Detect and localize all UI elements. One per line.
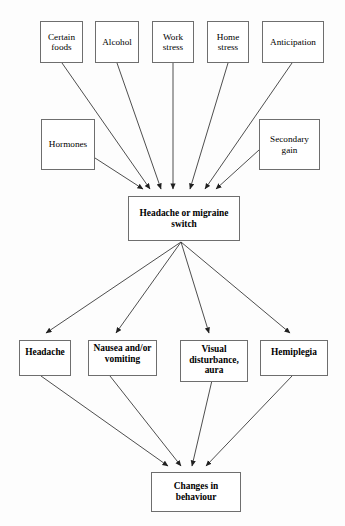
node-changes-in-behaviour[interactable]: Changes in behaviour	[151, 472, 241, 512]
node-secondary-gain-line2: gain	[282, 145, 298, 155]
node-switch-line2: switch	[171, 219, 197, 229]
node-visual-line3: aura	[205, 365, 224, 375]
edge-visual-to-changes	[192, 376, 213, 466]
edge-headache-to-changes	[41, 376, 168, 466]
node-headache-label: Headache	[20, 347, 70, 358]
node-anticipation-label: Anticipation	[263, 37, 323, 47]
edge-layer	[0, 0, 345, 526]
node-work-stress-line1: Work	[163, 32, 183, 42]
edge-secondary-gain-to-switch	[216, 150, 259, 189]
edge-switch-to-headache	[46, 242, 181, 333]
node-home-stress[interactable]: Home stress	[207, 21, 249, 63]
node-nausea-line1: Nausea and/or	[93, 343, 151, 353]
node-hemiplegia-label: Hemiplegia	[261, 347, 327, 358]
node-certain-foods-line1: Certain	[48, 32, 75, 42]
edge-switch-to-hemiplegia	[181, 242, 290, 333]
node-work-stress[interactable]: Work stress	[152, 21, 194, 63]
node-headache[interactable]: Headache	[19, 340, 71, 376]
node-nausea-vomiting[interactable]: Nausea and/or vomiting	[88, 340, 157, 376]
edge-home-stress-to-switch	[190, 63, 228, 189]
node-anticipation[interactable]: Anticipation	[262, 21, 324, 63]
node-certain-foods-line2: foods	[51, 42, 71, 52]
node-changes-line1: Changes in	[174, 481, 219, 491]
node-certain-foods[interactable]: Certain foods	[40, 21, 83, 63]
node-hormones[interactable]: Hormones	[41, 119, 95, 170]
node-headache-or-migraine-switch[interactable]: Headache or migraine switch	[128, 196, 240, 241]
cropped-caption-sliver	[0, 0, 345, 5]
edge-hemiplegia-to-changes	[206, 376, 292, 466]
node-home-stress-line1: Home	[217, 32, 239, 42]
edge-hormones-to-switch	[95, 158, 143, 189]
node-home-stress-line2: stress	[218, 42, 238, 52]
node-alcohol[interactable]: Alcohol	[95, 21, 139, 63]
node-visual-line2: disturbance,	[189, 355, 239, 365]
node-visual-line1: Visual	[201, 344, 226, 354]
flowchart-canvas: Certain foods Alcohol Work stress Home s…	[0, 0, 345, 526]
edge-switch-to-visual	[181, 242, 209, 333]
node-hemiplegia[interactable]: Hemiplegia	[260, 340, 328, 376]
node-nausea-line2: vomiting	[105, 354, 140, 364]
node-hormones-label: Hormones	[42, 139, 94, 149]
node-alcohol-label: Alcohol	[96, 37, 138, 47]
node-work-stress-line2: stress	[163, 42, 183, 52]
node-switch-line1: Headache or migraine	[140, 208, 229, 218]
edge-nausea-to-changes	[110, 376, 181, 466]
edge-switch-to-nausea	[116, 242, 181, 333]
node-secondary-gain[interactable]: Secondary gain	[259, 119, 320, 170]
node-changes-line2: behaviour	[176, 492, 217, 502]
node-secondary-gain-line1: Secondary	[270, 134, 309, 144]
node-visual-disturbance-aura[interactable]: Visual disturbance, aura	[180, 340, 248, 382]
edge-alcohol-to-switch	[117, 63, 161, 189]
